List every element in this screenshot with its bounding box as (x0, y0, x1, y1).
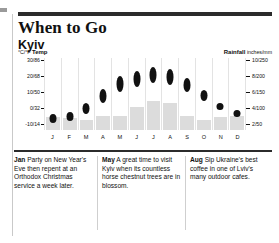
note-column: Jan Party on New Year's Eve then repent … (14, 156, 94, 190)
temperature-range-marker (133, 71, 140, 87)
temp-tick-label: -10/14 (16, 121, 40, 127)
temperature-range-marker (49, 114, 56, 123)
monthly-note: Jan Party on New Year's Eve then repent … (14, 156, 94, 190)
page-spine-rule (12, 14, 13, 236)
month-label: J (128, 132, 145, 142)
rainfall-bar (80, 120, 94, 130)
temperature-range-marker (200, 90, 207, 101)
month-column (129, 58, 146, 130)
note-separator-rule (97, 156, 98, 230)
month-label: M (111, 132, 128, 142)
month-label: N (212, 132, 229, 142)
rainfall-tick-dash (246, 92, 250, 93)
temp-tick-label: 10/50 (16, 89, 40, 95)
rainfall-tick-label: 8/200 (252, 73, 279, 79)
temp-axis-unit: °C/°F (18, 49, 31, 55)
month-label: A (94, 132, 111, 142)
temperature-range-marker (150, 67, 157, 83)
note-text: Party on New Year's Eve then repent at a… (14, 156, 86, 189)
note-separator-rule (185, 156, 186, 230)
temperature-range-marker (66, 112, 73, 121)
month-label: S (179, 132, 196, 142)
temperature-range-marker (116, 76, 123, 92)
rainfall-tick-label: 10/250 (252, 57, 279, 63)
rainfall-bar (96, 116, 110, 130)
rainfall-bar (130, 107, 144, 130)
monthly-note: Aug Sip Ukraine's best coffee in one of … (190, 156, 270, 182)
month-label: M (78, 132, 95, 142)
rainfall-bar (214, 117, 228, 130)
month-column (229, 58, 246, 130)
month-column (179, 58, 196, 130)
rainfall-tick-dash (246, 108, 250, 109)
top-divider-rule (18, 12, 272, 16)
temp-tick-label: 0/32 (16, 105, 40, 111)
month-label: F (61, 132, 78, 142)
rainfall-tick-label: 6/150 (252, 89, 279, 95)
month-label: D (229, 132, 246, 142)
temperature-range-marker (83, 103, 90, 114)
rainfall-bar (230, 116, 244, 130)
page-root: When to Go Kyiv °C/°F Temp Rainfall inch… (0, 0, 279, 243)
notes-divider-rule (14, 150, 272, 152)
temp-axis-caption: °C/°F Temp (18, 49, 48, 56)
month-label: J (145, 132, 162, 142)
note-month-label: Aug (190, 156, 203, 163)
note-column: Aug Sip Ukraine's best coffee in one of … (190, 156, 270, 190)
rainfall-bar (163, 103, 177, 130)
climate-chart: 30/8620/6810/500/32-10/14 10/2508/2006/1… (18, 58, 272, 138)
chart-plot-area (44, 58, 246, 130)
note-month-label: Jan (14, 156, 25, 163)
rainfall-tick-dash (246, 60, 250, 61)
temperature-range-marker (217, 103, 224, 110)
note-column: May A great time to visit Kyiv when its … (102, 156, 182, 190)
temp-tick-label: 20/68 (16, 73, 40, 79)
temperature-range-marker (100, 89, 107, 103)
month-column (95, 58, 112, 130)
rainfall-bar (180, 116, 194, 130)
month-axis-labels: JFMAMJJASOND (44, 132, 246, 142)
temperature-range-marker (183, 78, 190, 92)
month-label: J (44, 132, 61, 142)
rainfall-bar (147, 101, 161, 130)
rainfall-bar (113, 116, 127, 130)
month-column (44, 58, 62, 130)
rainfall-tick-label: 2/50 (252, 121, 279, 127)
rainfall-axis-caption: Rainfall inches/mm (224, 49, 272, 56)
note-month-label: May (102, 156, 115, 163)
temperature-range-marker (167, 69, 174, 85)
month-label: A (162, 132, 179, 142)
rainfall-bar (197, 120, 211, 130)
month-column (62, 58, 79, 130)
month-column (79, 58, 96, 130)
month-columns (44, 58, 246, 130)
temp-tick-label: 30/86 (16, 57, 40, 63)
month-column (196, 58, 213, 130)
monthly-note: May A great time to visit Kyiv when its … (102, 156, 182, 190)
rainfall-axis-unit: inches/mm (247, 49, 272, 55)
rainfall-tick-dash (246, 76, 250, 77)
rainfall-axis-label: Rainfall (224, 49, 246, 55)
temp-axis-label: Temp (32, 49, 48, 55)
month-label: O (195, 132, 212, 142)
rainfall-tick-dash (246, 124, 250, 125)
month-column (112, 58, 129, 130)
month-column (146, 58, 163, 130)
month-column (162, 58, 179, 130)
month-column (213, 58, 230, 130)
monthly-notes: Jan Party on New Year's Eve then repent … (14, 156, 272, 190)
page-title: When to Go (18, 18, 107, 38)
page-edge-mark (0, 8, 7, 12)
rainfall-tick-label: 4/100 (252, 105, 279, 111)
